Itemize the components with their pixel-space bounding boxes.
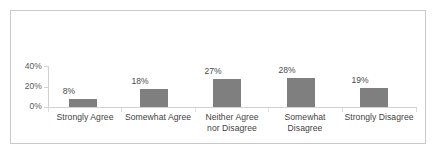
x-axis-label-strongly-disagree: Strongly Disagree [337,112,421,123]
x-axis-label-line: Somewhat [263,112,347,123]
x-axis-label-somewhat-disagree: Somewhat Disagree [263,112,347,134]
bar-chart-figure: 40% 20% 0% 8% 18% 27% 28% 19% Strongly A… [0,0,439,156]
bar-neither[interactable] [213,79,241,107]
bar-somewhat-agree[interactable] [140,89,168,107]
x-axis-label-line: Neither Agree [190,112,274,123]
x-axis-label-line: Disagree [263,123,347,134]
data-label-somewhat-agree: 18% [110,76,170,86]
x-axis-label-somewhat-agree: Somewhat Agree [116,112,200,123]
x-axis-label-line: Somewhat Agree [116,112,200,123]
bar-strongly-disagree[interactable] [360,88,388,107]
x-axis-label-neither: Neither Agree nor Disagree [190,112,274,134]
y-axis-tick-labels: 40% 20% 0% [0,0,42,156]
bar-somewhat-disagree[interactable] [287,78,315,107]
x-axis-line [48,107,417,108]
y-tick-label-0: 0% [30,102,43,111]
data-label-strongly-agree: 8% [39,86,99,96]
x-axis-label-line: Strongly Disagree [337,112,421,123]
x-axis-label-line: nor Disagree [190,123,274,134]
bar-strongly-agree[interactable] [69,99,97,107]
data-label-strongly-disagree: 19% [330,75,390,85]
data-label-somewhat-disagree: 28% [257,65,317,75]
x-axis-label-strongly-agree: Strongly Agree [43,112,127,123]
x-axis-label-line: Strongly Agree [43,112,127,123]
data-label-neither: 27% [183,66,243,76]
y-tick-label-40: 40% [25,62,42,71]
